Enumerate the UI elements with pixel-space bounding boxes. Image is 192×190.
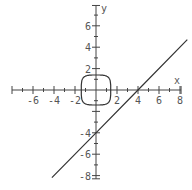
x-tick-label: 6 [156,95,162,106]
x-tick-label: -6 [27,95,39,106]
y-tick-label: -4 [79,128,91,139]
axes [12,5,181,178]
line-curve [52,40,187,178]
x-tick-label: -2 [69,95,81,106]
x-tick-label: 8 [177,95,183,106]
y-axis-label: y [101,3,107,14]
tick-labels: -6-4-22468642-4-6-8 [27,21,183,182]
x-tick-label: -4 [48,95,60,106]
y-tick-label: -6 [79,149,91,160]
x-tick-label: 4 [135,95,141,106]
y-tick-label: 2 [85,64,91,75]
y-tick-label: 4 [85,42,91,53]
y-tick-label: -8 [79,171,91,182]
x-tick-label: 2 [114,95,120,106]
y-tick-label: 6 [85,21,91,32]
graph: -6-4-22468642-4-6-8 x y [0,0,192,190]
x-axis-label: x [174,75,180,86]
plotted-curves [52,40,187,178]
